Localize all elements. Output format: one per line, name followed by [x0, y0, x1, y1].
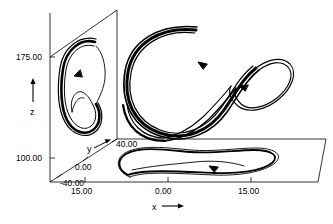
- figure-3d-phase-plot: 175.00 100.00 z -40.00 0.00 40.00 y 15: [0, 0, 333, 224]
- up-right-arrow-head-icon: [105, 139, 111, 143]
- series-projection-xy-floor-plane: [118, 147, 278, 177]
- z-tick-label-100: 100.00: [16, 153, 42, 163]
- z-axis-ticks: [50, 57, 55, 158]
- z-tick-label-175: 175.00: [16, 52, 42, 62]
- axis-frame: [50, 10, 326, 182]
- x-tick-label-right-15: 15.00: [238, 186, 260, 196]
- y-axis-label: y: [87, 144, 92, 154]
- x-axis-ticks: [85, 177, 251, 182]
- y-axis-arrow-group: [94, 139, 111, 148]
- y-tick-label-40: 40.00: [116, 139, 138, 149]
- x-axis-label: x: [152, 202, 157, 212]
- z-axis-label: z: [30, 107, 35, 117]
- floor-right-edge: [318, 139, 326, 182]
- right-arrow-head-icon: [178, 203, 184, 208]
- x-tick-label-0: 0.00: [155, 186, 172, 196]
- proj-yz-hook-curl: [72, 98, 84, 112]
- proj-yz-band: [61, 41, 99, 133]
- series-projection-yz-back-plane: [58, 38, 105, 135]
- proj-yz-inner: [64, 45, 95, 128]
- up-arrow-head-icon: [30, 78, 35, 84]
- series-attractor-trajectory-3d: [123, 26, 294, 141]
- direction-arrow-icon-proj-xy: [209, 166, 218, 172]
- x-tick-label-left-15: 15.00: [71, 186, 93, 196]
- proj-yz-upper-return: [96, 46, 105, 104]
- x-axis-arrow-group: [162, 203, 184, 208]
- proj-yz-hook-tail: [71, 92, 93, 112]
- direction-arrow-icon-main-1: [198, 62, 207, 69]
- plot-canvas: 175.00 100.00 z -40.00 0.00 40.00 y 15: [0, 0, 333, 224]
- z-axis-arrow-group: [30, 78, 35, 102]
- y-tick-0: [83, 157, 88, 161]
- attractor-big-lobe-inner: [130, 32, 253, 133]
- y-tick-label-0: 0.00: [75, 162, 92, 172]
- back-plane-top-edge: [50, 10, 117, 57]
- proj-xy-inner-strand: [132, 161, 244, 170]
- direction-arrow-icon-proj-yz: [74, 70, 82, 77]
